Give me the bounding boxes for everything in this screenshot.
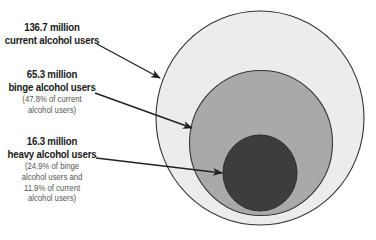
current-users-value: 136.7 million xyxy=(4,21,100,34)
binge-users-value: 65.3 million xyxy=(4,68,100,81)
heavy-users-label: 16.3 million heavy alcohol users (24.9% … xyxy=(0,135,104,204)
current-users-name: current alcohol users xyxy=(4,34,100,47)
heavy-users-value: 16.3 million xyxy=(4,135,100,148)
heavy-users-circle xyxy=(223,135,297,211)
heavy-users-note-line: alcohol users) xyxy=(5,193,99,204)
binge-users-label: 65.3 million binge alcohol users (47.8% … xyxy=(0,68,104,116)
binge-users-note-line: (47.8% of current xyxy=(5,94,99,105)
heavy-users-note-line: alcohol users and xyxy=(5,172,99,183)
current-users-arrow xyxy=(97,44,160,78)
current-users-label: 136.7 million current alcohol users xyxy=(0,21,104,47)
binge-users-name: binge alcohol users xyxy=(4,81,100,94)
heavy-users-note-line: (24.9% of binge xyxy=(5,161,99,172)
heavy-users-note-line: 11.9% of current xyxy=(5,183,99,194)
heavy-users-name: heavy alcohol users xyxy=(4,148,100,161)
binge-users-note-line: alcohol users) xyxy=(5,105,99,116)
